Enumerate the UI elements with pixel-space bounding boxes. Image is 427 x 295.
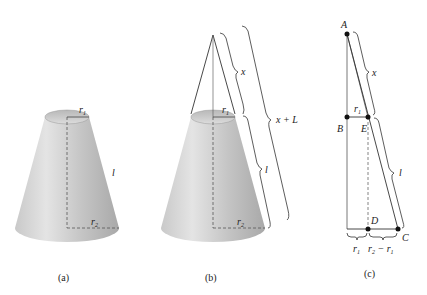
point-B (345, 115, 350, 120)
label-E: E (360, 123, 367, 134)
panel-c: A B E D C r1 x l r1 r2 − r1 (c) (337, 19, 409, 280)
panel-b: r1 r2 x l x + L (b) (161, 26, 298, 284)
brace-r2-minus-r1 (369, 233, 397, 240)
label-A: A (340, 19, 348, 30)
apex-right-edge (213, 35, 235, 114)
point-A (345, 32, 350, 37)
point-D (366, 227, 371, 232)
label-r1-bottom: r1 (353, 243, 360, 255)
panel-a: r1 r2 l (a) (15, 104, 119, 284)
frustum-figure: r1 r2 l (a) r1 r2 x l x + L (b) (0, 0, 427, 295)
label-B: B (337, 123, 343, 134)
label-l: l (265, 164, 268, 175)
point-E (366, 115, 371, 120)
caption-a: (a) (58, 272, 69, 284)
label-r1: r1 (79, 104, 86, 116)
label-r1: r1 (222, 104, 229, 116)
apex-left-edge (191, 35, 213, 114)
label-x-plus-L: x + L (275, 114, 298, 125)
label-l: l (399, 167, 402, 178)
label-slant-l: l (112, 167, 115, 178)
label-x: x (371, 67, 377, 78)
label-D: D (370, 215, 379, 226)
caption-b: (b) (205, 272, 217, 284)
caption-c: (c) (364, 268, 375, 280)
brace-r1-bottom (347, 233, 367, 240)
point-C (396, 227, 401, 232)
label-r2-minus-r1: r2 − r1 (368, 243, 394, 255)
label-C: C (402, 232, 409, 243)
label-r1-segment: r1 (354, 103, 361, 115)
segment-AC (347, 34, 398, 229)
label-x: x (240, 66, 246, 77)
